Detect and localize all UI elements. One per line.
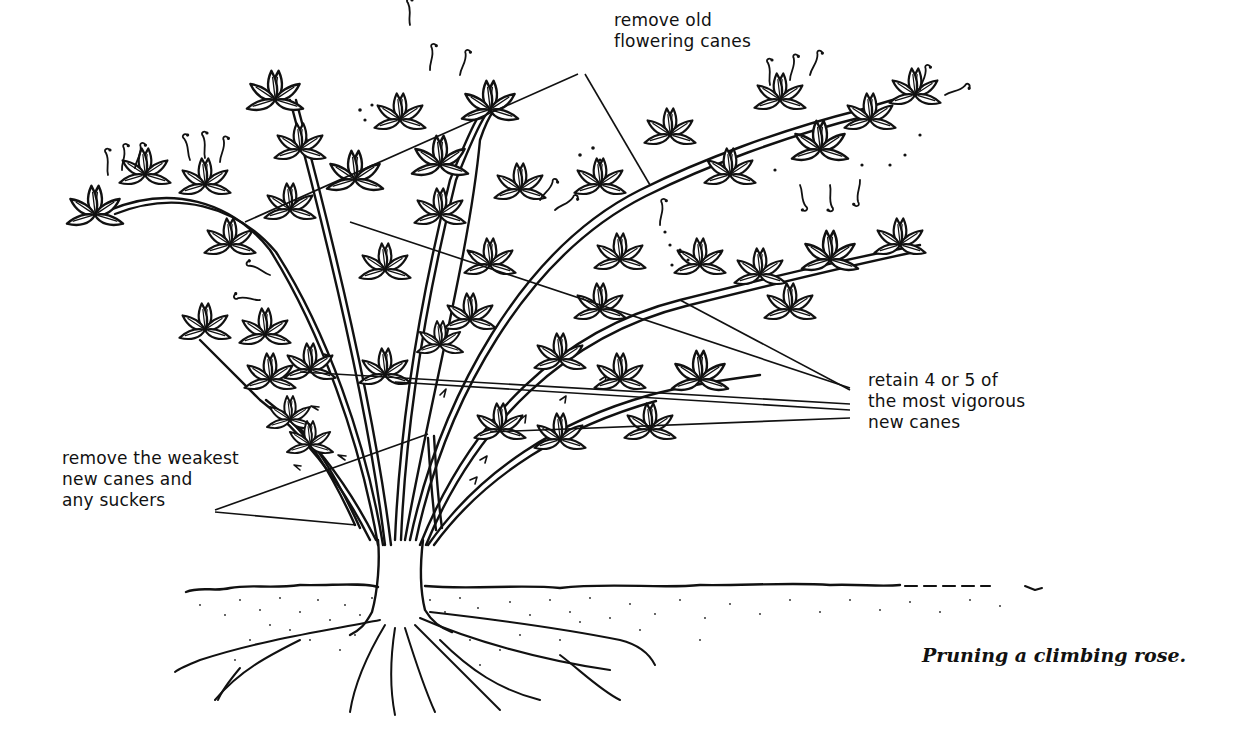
label-remove-old-flowering-canes: remove old flowering canes (614, 10, 751, 52)
ground-line (186, 584, 1042, 592)
label-line: remove old (614, 10, 751, 31)
label-line: retain 4 or 5 of (868, 370, 1025, 391)
label-line: the most vigorous (868, 391, 1025, 412)
label-line: new canes and (62, 469, 239, 490)
illustration-canvas (0, 0, 1253, 730)
label-retain-vigorous-canes: retain 4 or 5 of the most vigorous new c… (868, 370, 1025, 433)
label-remove-weakest-canes: remove the weakest new canes and any suc… (62, 448, 239, 511)
label-line: remove the weakest (62, 448, 239, 469)
foliage (67, 68, 941, 458)
label-line: new canes (868, 412, 1025, 433)
roots (175, 612, 655, 715)
label-line: any suckers (62, 490, 239, 511)
label-line: flowering canes (614, 31, 751, 52)
figure-caption: Pruning a climbing rose. (922, 644, 1186, 666)
